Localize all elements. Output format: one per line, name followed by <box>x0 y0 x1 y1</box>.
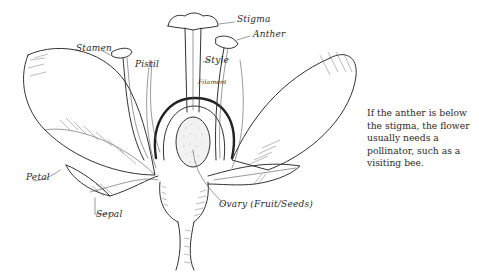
stigma <box>168 13 218 30</box>
leader-lines <box>34 22 250 214</box>
label-style: Style <box>205 55 229 65</box>
right-petal <box>232 52 356 170</box>
right-sepal <box>208 164 300 185</box>
pollination-caption: If the anther is below the stigma, the f… <box>367 107 479 170</box>
label-petal: Petal <box>26 172 50 182</box>
flower-diagram: Stigma Anther Stamen Pistil Style Filame… <box>0 0 479 273</box>
label-stamen: Stamen <box>76 43 112 53</box>
label-pistil: Pistil <box>135 59 159 69</box>
label-ovary: Ovary (Fruit/Seeds) <box>219 199 313 209</box>
label-anther: Anther <box>253 29 286 39</box>
label-sepal: Sepal <box>96 209 123 219</box>
label-filament: Filament <box>198 78 227 85</box>
stem <box>176 222 194 270</box>
receptacle <box>160 182 209 222</box>
ovule <box>176 117 210 167</box>
label-stigma: Stigma <box>237 14 271 24</box>
left-sepal <box>66 165 158 196</box>
